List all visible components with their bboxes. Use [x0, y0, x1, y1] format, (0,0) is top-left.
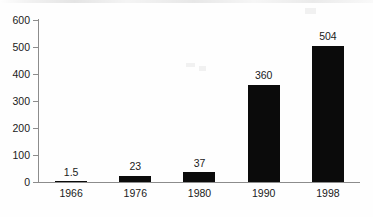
bar-value-label: 37: [194, 158, 206, 169]
bar: [312, 46, 344, 182]
y-axis-tick-label: 600: [0, 15, 30, 26]
bar-group: 37: [167, 20, 231, 182]
y-axis-tick: [33, 128, 38, 129]
bar-value-label: 23: [129, 161, 141, 172]
y-axis-tick-label: 500: [0, 42, 30, 53]
bar-chart: 0100200300400500600 1.52337360504 196619…: [0, 0, 373, 217]
scan-speck: [305, 8, 316, 14]
bar: [119, 176, 151, 182]
x-axis-tick-label: 1998: [316, 188, 339, 199]
bar-group: 360: [232, 20, 296, 182]
bar-group: 504: [296, 20, 360, 182]
bar-value-label: 504: [319, 31, 337, 42]
x-axis-tick-label: 1966: [59, 188, 82, 199]
bar-value-label: 360: [255, 70, 273, 81]
y-axis-tick: [33, 101, 38, 102]
bar: [248, 85, 280, 182]
y-axis-tick: [33, 74, 38, 75]
y-axis-tick: [33, 47, 38, 48]
bar: [183, 172, 215, 182]
bar-group: 1.5: [39, 20, 103, 182]
y-axis-tick: [33, 155, 38, 156]
x-axis-line: [38, 182, 360, 183]
y-axis-tick-label: 100: [0, 150, 30, 161]
x-axis-tick-label: 1980: [188, 188, 211, 199]
y-axis-tick-label: 400: [0, 69, 30, 80]
scan-artifact-streak: [0, 0, 373, 3]
x-axis-tick-label: 1976: [124, 188, 147, 199]
y-axis-tick-label: 300: [0, 96, 30, 107]
bar-group: 23: [103, 20, 167, 182]
bar: [55, 181, 87, 182]
x-axis-tick-label: 1990: [252, 188, 275, 199]
bar-value-label: 1.5: [64, 167, 79, 178]
plot-area: 1.52337360504: [39, 20, 360, 182]
y-axis-tick-label: 200: [0, 123, 30, 134]
y-axis-tick-label: 0: [0, 177, 30, 188]
y-axis-tick: [33, 20, 38, 21]
